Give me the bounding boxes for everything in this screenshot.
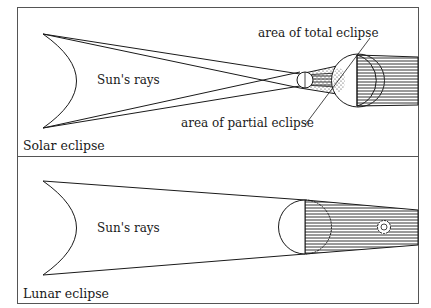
sun-rays-label: Sun's rays — [97, 221, 160, 235]
total-eclipse-label: area of total eclipse — [258, 26, 379, 40]
solar-eclipse-title: Solar eclipse — [23, 138, 105, 153]
sun-rays-label: Sun's rays — [97, 73, 160, 87]
diagram-frame — [18, 8, 419, 304]
partial-eclipse-label: area of partial eclipse — [181, 116, 314, 130]
earth — [279, 200, 306, 254]
lunar-eclipse-panel: Sun's rays Lunar eclipse — [23, 181, 420, 301]
sun-rays — [43, 34, 337, 128]
lunar-eclipse-title: Lunar eclipse — [23, 286, 109, 301]
solar-eclipse-panel: Sun's rays area of total eclipse area of… — [23, 26, 419, 153]
sun-arc — [43, 34, 77, 128]
sun-arc — [43, 181, 77, 275]
moon — [378, 221, 391, 234]
eclipse-diagram: Sun's rays area of total eclipse area of… — [0, 0, 431, 308]
sun-rays — [43, 181, 305, 275]
